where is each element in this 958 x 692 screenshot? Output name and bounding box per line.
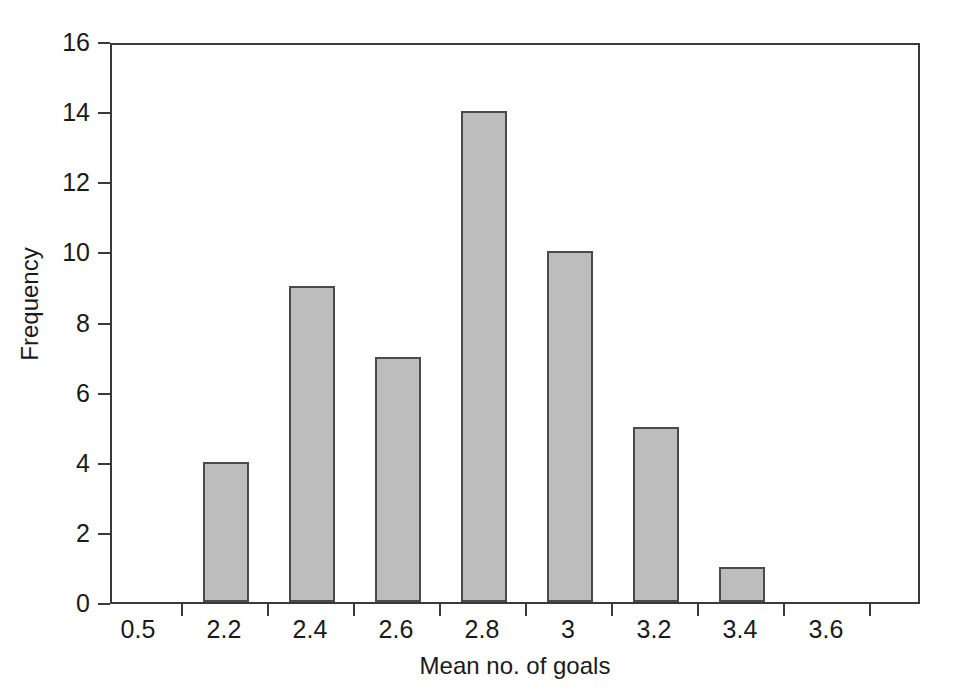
plot-area	[110, 43, 920, 604]
x-axis-tick-mark	[181, 604, 183, 616]
y-axis-tick-mark	[98, 42, 110, 44]
y-axis-tick-label: 10	[30, 240, 90, 265]
y-axis-tick-label: 16	[30, 30, 90, 55]
bar	[375, 357, 421, 602]
x-axis-tick-label: 0.5	[98, 615, 178, 643]
y-axis-tick-mark	[98, 182, 110, 184]
x-axis-tick-mark	[439, 604, 441, 616]
y-axis-tick-label: 8	[30, 311, 90, 336]
y-axis-tick-label: 12	[30, 170, 90, 195]
y-axis-tick-mark	[98, 463, 110, 465]
y-axis-tick-label: 0	[30, 591, 90, 616]
y-axis-tick-mark	[98, 252, 110, 254]
y-axis-tick-label: 14	[30, 100, 90, 125]
x-axis-tick-mark	[353, 604, 355, 616]
bar	[719, 567, 765, 602]
bar	[203, 462, 249, 602]
x-axis-tick-mark	[869, 604, 871, 616]
y-axis-tick-mark	[98, 112, 110, 114]
x-axis-tick-label: 3	[528, 615, 608, 643]
x-axis-tick-mark	[267, 604, 269, 616]
bar	[461, 111, 507, 602]
y-axis-tick-label: 4	[30, 451, 90, 476]
x-axis-tick-label: 2.4	[270, 615, 350, 643]
histogram-figure: Frequency 0246810121416 0.52.22.42.62.83…	[0, 0, 958, 692]
y-axis-tick-mark	[98, 393, 110, 395]
y-axis-tick-label: 2	[30, 521, 90, 546]
y-axis-tick-mark	[98, 603, 110, 605]
x-axis-tick-mark	[611, 604, 613, 616]
x-axis-tick-label: 3.6	[786, 615, 866, 643]
bar	[633, 427, 679, 602]
x-axis-tick-mark	[525, 604, 527, 616]
bar	[289, 286, 335, 602]
y-axis-tick-mark	[98, 323, 110, 325]
y-axis-tick-label: 6	[30, 381, 90, 406]
x-axis-tick-mark	[697, 604, 699, 616]
x-axis-tick-label: 2.2	[184, 615, 264, 643]
bar	[547, 251, 593, 602]
x-axis-tick-mark	[783, 604, 785, 616]
x-axis-tick-label: 2.8	[442, 615, 522, 643]
x-axis-label: Mean no. of goals	[110, 652, 920, 680]
x-axis-tick-label: 3.4	[700, 615, 780, 643]
x-axis-tick-label: 3.2	[614, 615, 694, 643]
y-axis-tick-mark	[98, 533, 110, 535]
x-axis-tick-label: 2.6	[356, 615, 436, 643]
